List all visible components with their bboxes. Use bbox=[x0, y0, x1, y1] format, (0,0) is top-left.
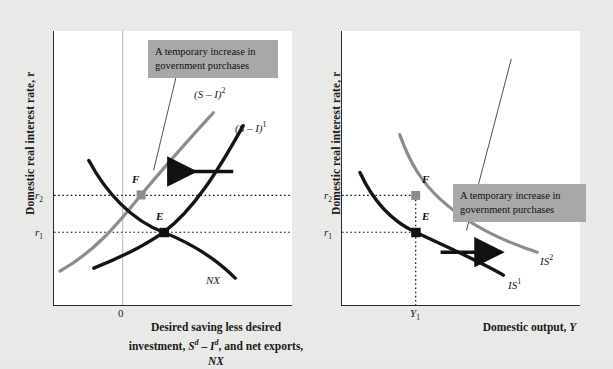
callout-right-line2: government purchases bbox=[460, 203, 579, 217]
plot-area-right: F E IS2 IS1 bbox=[341, 31, 580, 306]
marker-point-e-right bbox=[411, 228, 420, 237]
curve-label-saving-investment-shifted: (S – I)2 bbox=[194, 86, 226, 100]
callout-right: A temporary increase in government purch… bbox=[453, 184, 586, 222]
marker-point-e-left bbox=[160, 228, 169, 237]
x-tick-y1-right: Y1 bbox=[410, 307, 420, 322]
point-label-f-left: F bbox=[132, 173, 139, 185]
curve-label-is-shifted: IS2 bbox=[540, 253, 553, 267]
x-axis-label-left-line2: investment, Sd – Id, and net exports, NX bbox=[126, 335, 306, 369]
panel-saving-investment: Domestic real interest rate, r bbox=[0, 0, 306, 363]
y-tick-r2-left: r2 bbox=[35, 189, 43, 204]
point-label-e-right: E bbox=[422, 210, 429, 222]
y-tick-r2-right: r2 bbox=[324, 189, 332, 204]
x-axis-label-right: Domestic output, Y bbox=[452, 320, 607, 335]
curve-label-saving-investment-initial: (S – I)1 bbox=[235, 120, 267, 134]
marker-point-f-left bbox=[137, 190, 146, 199]
callout-right-line1: A temporary increase in bbox=[460, 189, 579, 203]
point-label-f-right: F bbox=[422, 173, 429, 185]
marker-point-f-right bbox=[411, 191, 420, 200]
x-tick-zero-left: 0 bbox=[118, 307, 124, 319]
callout-left: A temporary increase in government purch… bbox=[148, 40, 278, 78]
point-label-e-left: E bbox=[156, 210, 163, 222]
curve-label-is-initial: IS1 bbox=[508, 277, 521, 291]
y-tick-r1-right: r1 bbox=[324, 226, 332, 241]
x-axis-label-left-line1: Desired saving less desired bbox=[126, 320, 306, 335]
x-axis-label-left: Desired saving less desired investment, … bbox=[126, 320, 306, 369]
callout-left-line1: A temporary increase in bbox=[155, 45, 271, 59]
callout-left-line2: government purchases bbox=[155, 59, 271, 73]
y-tick-r1-left: r1 bbox=[35, 226, 43, 241]
curve-label-net-exports: NX bbox=[206, 274, 220, 286]
panel-is-curve: Domestic real interest rate, r bbox=[306, 0, 613, 363]
